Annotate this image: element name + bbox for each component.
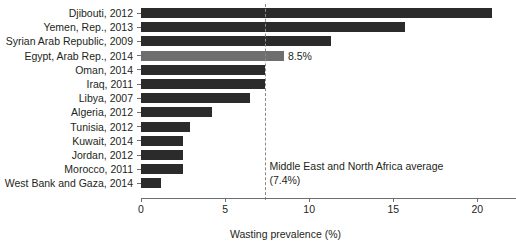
x-axis-title: Wasting prevalence (%) xyxy=(0,228,516,240)
average-reference-annotation: Middle East and North Africa average (7.… xyxy=(269,160,443,187)
x-tick xyxy=(225,198,226,202)
bar-row xyxy=(141,34,516,48)
category-label: Kuwait, 2014 xyxy=(0,134,133,148)
average-annotation-line-2: (7.4%) xyxy=(269,174,443,188)
bar xyxy=(141,8,492,18)
bar-value-label: 8.5% xyxy=(288,49,312,63)
average-reference-line xyxy=(265,4,266,200)
category-label: Libya, 2007 xyxy=(0,91,133,105)
x-tick xyxy=(393,198,394,202)
x-tick xyxy=(309,198,310,202)
category-label: Iraq, 2011 xyxy=(0,77,133,91)
x-tick-label: 5 xyxy=(222,203,228,216)
bar xyxy=(141,65,265,75)
bar-row xyxy=(141,6,516,20)
x-tick-label: 15 xyxy=(387,203,399,216)
category-label: Syrian Arab Republic, 2009 xyxy=(0,34,133,48)
category-label: Djibouti, 2012 xyxy=(0,6,133,20)
bar xyxy=(141,36,331,46)
bar xyxy=(141,164,183,174)
bar xyxy=(141,136,183,146)
bar xyxy=(141,107,212,117)
bar-row xyxy=(141,120,516,134)
bar xyxy=(141,150,183,160)
bar-row xyxy=(141,105,516,119)
bar xyxy=(141,22,405,32)
wasting-prevalence-bar-chart: Djibouti, 2012Yemen, Rep., 2013Syrian Ar… xyxy=(0,0,516,249)
category-label: Algeria, 2012 xyxy=(0,105,133,119)
bar-row: 8.5% xyxy=(141,49,516,63)
bar xyxy=(141,122,190,132)
category-label: Egypt, Arab Rep., 2014 xyxy=(0,49,133,63)
category-label: Oman, 2014 xyxy=(0,63,133,77)
x-tick xyxy=(477,198,478,202)
bar xyxy=(141,79,265,89)
category-axis: Djibouti, 2012Yemen, Rep., 2013Syrian Ar… xyxy=(0,6,137,198)
category-label: Jordan, 2012 xyxy=(0,148,133,162)
bar xyxy=(141,178,161,188)
category-label: Morocco, 2011 xyxy=(0,162,133,176)
category-label: Tunisia, 2012 xyxy=(0,120,133,134)
bar-row xyxy=(141,134,516,148)
bar-row xyxy=(141,77,516,91)
x-tick-label: 20 xyxy=(471,203,483,216)
category-label: West Bank and Gaza, 2014 xyxy=(0,176,133,190)
x-tick-label: 10 xyxy=(303,203,315,216)
bar-row xyxy=(141,63,516,77)
bar-row xyxy=(141,20,516,34)
category-label: Yemen, Rep., 2013 xyxy=(0,20,133,34)
bar-row xyxy=(141,91,516,105)
x-axis-title-text: Wasting prevalence (%) xyxy=(230,228,341,240)
x-tick-label: 0 xyxy=(138,203,144,216)
bar xyxy=(141,51,284,61)
x-tick xyxy=(141,198,142,202)
x-axis-line xyxy=(141,198,516,199)
average-annotation-line-1: Middle East and North Africa average xyxy=(269,160,443,174)
bar xyxy=(141,93,250,103)
